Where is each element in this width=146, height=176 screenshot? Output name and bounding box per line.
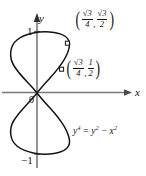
lower-point-y-numerator: 1 bbox=[88, 58, 94, 67]
x-axis-label: x bbox=[135, 87, 140, 98]
left-paren: ( bbox=[66, 59, 71, 78]
lower-point-label: ( √3 4 , 1 2 ) bbox=[65, 58, 102, 78]
right-paren: ) bbox=[109, 10, 114, 29]
curve-equation: y4 = y2 − x2 bbox=[73, 127, 117, 137]
lower-point-x-fraction: √3 4 bbox=[73, 58, 84, 78]
origin-label: 0 bbox=[29, 95, 34, 105]
upper-point-y-denominator: 2 bbox=[99, 20, 105, 29]
upper-point-x-denominator: 4 bbox=[84, 20, 90, 29]
lower-point-marker bbox=[60, 67, 64, 71]
upper-point-x-fraction: √3 4 bbox=[82, 9, 93, 29]
left-paren: ( bbox=[75, 10, 80, 29]
upper-point-y-numerator: √3 bbox=[97, 9, 108, 18]
lower-point-y-denominator: 2 bbox=[88, 69, 94, 78]
lower-point-x-denominator: 4 bbox=[75, 69, 81, 78]
lower-point-y-fraction: 1 2 bbox=[88, 58, 94, 78]
upper-point-label: ( √3 4 , √3 2 ) bbox=[74, 9, 115, 29]
x-axis bbox=[2, 89, 132, 96]
lower-point-x-numerator: √3 bbox=[73, 58, 84, 67]
upper-point-marker bbox=[65, 41, 69, 45]
y-axis-label: y bbox=[39, 13, 44, 24]
y-tick-label-minus-1: −1 bbox=[21, 155, 33, 166]
curve-figure: y x 1 −1 0 ( √3 4 , √3 2 ) ( √3 4 , 1 bbox=[0, 0, 146, 176]
equation-rhs2-exponent: 2 bbox=[114, 125, 117, 131]
y-tick-label-1: 1 bbox=[27, 26, 33, 37]
upper-point-y-fraction: √3 2 bbox=[97, 9, 108, 29]
right-paren: ) bbox=[96, 59, 101, 78]
plot-canvas bbox=[0, 0, 146, 176]
upper-point-x-numerator: √3 bbox=[82, 9, 93, 18]
